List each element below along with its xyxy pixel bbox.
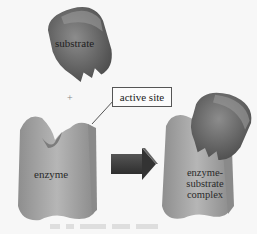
reaction-arrow-icon (111, 148, 158, 180)
plus-sign: + (67, 93, 73, 104)
complex-label-line3: complex (180, 189, 230, 200)
enzyme-label: enzyme (34, 169, 68, 181)
complex-label: enzyme- substrate complex (180, 167, 230, 200)
complex-label-line2: substrate (180, 178, 230, 189)
complex-label-line1: enzyme- (180, 167, 230, 178)
figure-caption-faded (50, 224, 200, 230)
callout-pointer (92, 100, 114, 124)
substrate-label: substrate (55, 38, 94, 50)
active-site-callout: active site (112, 87, 172, 107)
